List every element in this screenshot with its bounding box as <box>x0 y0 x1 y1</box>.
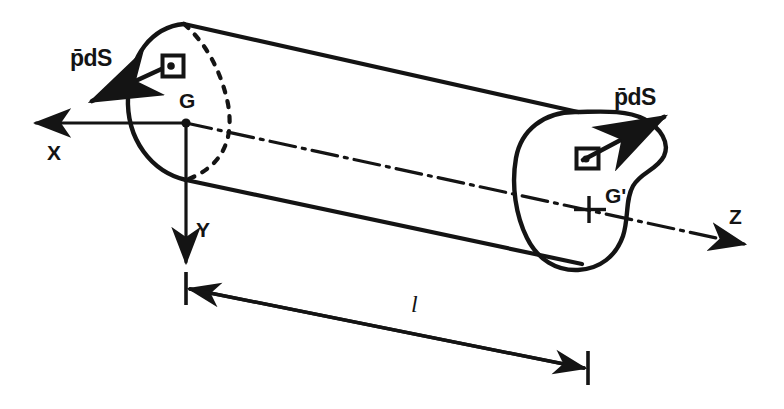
cylinder-top-edge <box>184 24 578 112</box>
y-axis-label: Y <box>196 219 210 240</box>
right-pressure-arrow <box>583 117 664 160</box>
central-axis-line <box>186 123 744 244</box>
z-axis-arrow-line <box>186 123 744 244</box>
point-g-marker <box>181 118 190 127</box>
right-surface-element-dot <box>582 155 589 162</box>
figure-canvas: p̄dS p̄dS G G' X Y Z l <box>0 0 784 409</box>
diagram-drawing <box>0 0 784 409</box>
length-dimension-label: l <box>411 292 418 316</box>
z-axis-label: Z <box>729 206 742 227</box>
left-pressure-vector-label: p̄dS <box>70 47 112 70</box>
near-section-solid-arc <box>128 24 186 180</box>
point-g-prime-label: G' <box>605 185 626 206</box>
left-surface-element-dot <box>167 62 175 70</box>
far-section-outline <box>514 112 666 270</box>
length-dimension <box>186 272 588 385</box>
right-pressure-vector <box>577 117 665 169</box>
x-axis-label: X <box>47 142 61 163</box>
point-g-label: G <box>179 90 195 111</box>
point-g-prime-marker <box>574 196 606 223</box>
dimension-arrow-to-right <box>190 289 584 368</box>
far-cross-section <box>514 112 666 270</box>
right-pressure-vector-label: p̄dS <box>614 86 656 109</box>
